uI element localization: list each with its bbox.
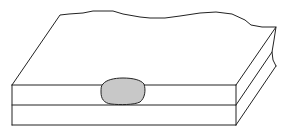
top-surface-outline (12, 11, 276, 85)
weld-nugget (101, 78, 145, 105)
side-interface-edge (236, 52, 272, 105)
weld-diagram (0, 0, 291, 134)
